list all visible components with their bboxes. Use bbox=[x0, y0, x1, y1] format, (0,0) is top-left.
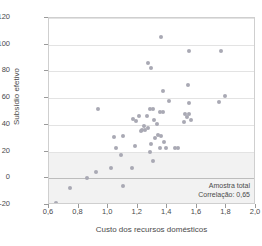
plot-area: Amostra total Correlação: 0,65 bbox=[48, 17, 255, 204]
y-axis-tick-label: 0 bbox=[0, 173, 10, 181]
data-point bbox=[121, 184, 125, 188]
x-axis-tick-mark bbox=[48, 204, 49, 208]
x-axis-tick-label: 1,8 bbox=[210, 207, 240, 216]
data-point bbox=[149, 142, 153, 146]
y-axis-tick-label: 60 bbox=[0, 93, 10, 101]
x-axis-tick-label: 1,0 bbox=[92, 207, 122, 216]
data-point bbox=[96, 107, 100, 111]
x-axis-tick-mark bbox=[107, 204, 108, 208]
data-point bbox=[217, 100, 221, 104]
data-point bbox=[54, 201, 58, 204]
data-point bbox=[130, 166, 134, 170]
data-point bbox=[114, 146, 118, 150]
data-point bbox=[121, 134, 125, 138]
data-point bbox=[161, 89, 165, 93]
data-point bbox=[151, 107, 155, 111]
scatter-chart-figure: Subsídio efetivo -20020406080100120 Amos… bbox=[0, 0, 262, 246]
y-axis-tick-label: 20 bbox=[0, 147, 10, 155]
data-point bbox=[146, 126, 150, 130]
data-point bbox=[152, 118, 156, 122]
x-axis-tick-label: 1,6 bbox=[181, 207, 211, 216]
data-point bbox=[112, 135, 116, 139]
x-axis-tick-mark bbox=[166, 204, 167, 208]
data-point bbox=[142, 124, 146, 128]
data-point bbox=[158, 146, 162, 150]
gridline-y bbox=[49, 71, 254, 72]
data-point bbox=[161, 110, 165, 114]
data-point bbox=[186, 83, 190, 87]
data-point bbox=[159, 35, 163, 39]
x-axis-tick-label: 0,6 bbox=[33, 207, 63, 216]
zero-line bbox=[49, 178, 254, 179]
x-axis-tick-label: 0,8 bbox=[63, 207, 93, 216]
data-point bbox=[187, 112, 191, 116]
y-axis-title: Subsídio efetivo bbox=[12, 37, 21, 157]
data-point bbox=[109, 166, 113, 170]
y-axis-tick-label: 100 bbox=[0, 40, 10, 48]
data-point bbox=[176, 146, 180, 150]
x-axis-tick-label: 1,4 bbox=[151, 207, 181, 216]
data-point bbox=[164, 146, 168, 150]
x-axis-tick-label: 2,0 bbox=[240, 207, 262, 216]
x-axis-tick-mark bbox=[137, 204, 138, 208]
gridline-y bbox=[49, 18, 254, 19]
data-point bbox=[68, 186, 72, 190]
annotation-sample-label: Amostra total bbox=[198, 181, 250, 190]
x-axis-tick-mark bbox=[78, 204, 79, 208]
x-axis-tick-mark bbox=[225, 204, 226, 208]
data-point bbox=[189, 118, 193, 122]
data-point bbox=[134, 119, 138, 123]
annotation-box: Amostra total Correlação: 0,65 bbox=[198, 181, 250, 199]
data-point bbox=[162, 140, 166, 144]
gridline-y bbox=[49, 125, 254, 126]
x-axis-tick-mark bbox=[196, 204, 197, 208]
y-axis-tick-label: 80 bbox=[0, 66, 10, 74]
x-axis-tick-label: 1,2 bbox=[122, 207, 152, 216]
data-point bbox=[145, 114, 149, 118]
data-point bbox=[151, 159, 155, 163]
data-point bbox=[94, 170, 98, 174]
data-point bbox=[133, 144, 137, 148]
y-axis-tick-label: -20 bbox=[0, 200, 10, 208]
data-point bbox=[182, 120, 186, 124]
x-axis-title: Custo dos recursos domésticos bbox=[48, 225, 255, 234]
data-point bbox=[137, 114, 141, 118]
x-axis-tick-mark bbox=[255, 204, 256, 208]
data-point bbox=[146, 61, 150, 65]
y-axis-tick-label: 120 bbox=[0, 13, 10, 21]
gridline-y bbox=[49, 45, 254, 46]
annotation-correlation-label: Correlação: 0,65 bbox=[198, 190, 250, 199]
data-point bbox=[219, 49, 223, 53]
data-point bbox=[187, 101, 191, 105]
data-point bbox=[187, 49, 191, 53]
gridline-y bbox=[49, 98, 254, 99]
data-point bbox=[159, 134, 163, 138]
y-axis-tick-label: 40 bbox=[0, 120, 10, 128]
data-point bbox=[148, 150, 152, 154]
data-point bbox=[149, 66, 153, 70]
data-point bbox=[167, 99, 171, 103]
